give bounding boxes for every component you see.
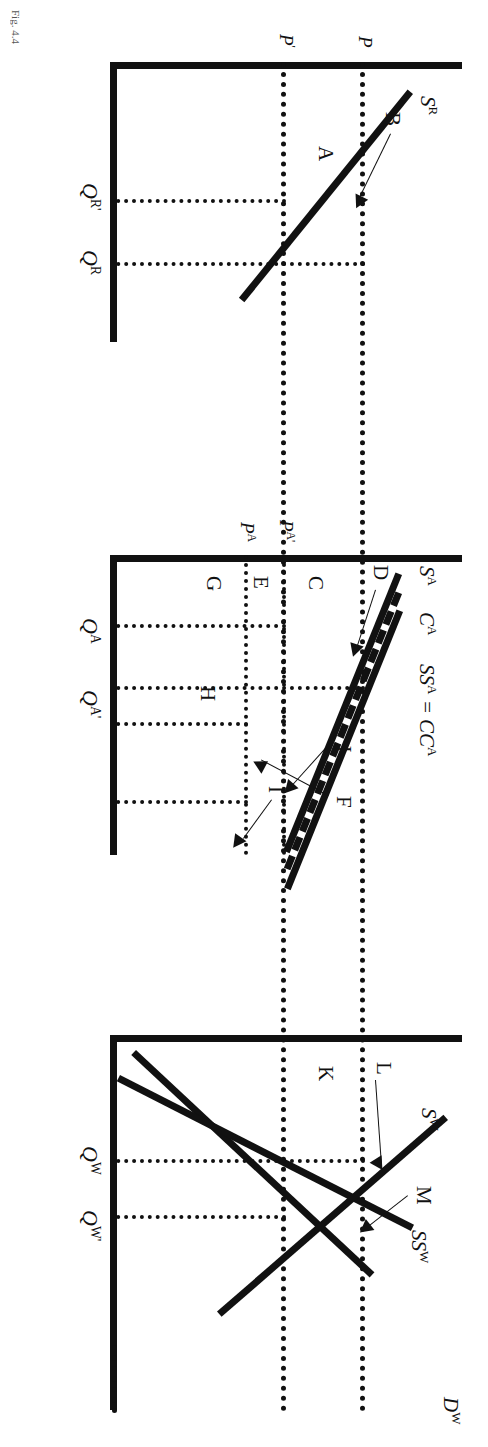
area-label-L: L [371, 1062, 396, 1075]
area-label-E: E [248, 576, 273, 589]
area-label-B: B [380, 112, 405, 126]
figure-caption: Fig. 4.4 [10, 10, 22, 44]
area-label-H: H [195, 686, 220, 701]
economics-figure: A B SR P P' QR' QR [0, 0, 488, 1447]
curve-label-SSW-base: SS [407, 1230, 431, 1251]
curve-label-CCA-sup: A [425, 747, 440, 756]
price-axis-label-PA-prime: PA' [275, 520, 297, 542]
panel2-quantity-axis [110, 555, 117, 855]
panel2-price-axis [110, 555, 462, 562]
panel2-qline-b [116, 686, 365, 690]
panel1-qline-QR-prime [116, 199, 286, 203]
panel3-axis-dotted-stub [112, 1345, 117, 1413]
curve-label-CA-base: C [415, 612, 439, 626]
price-line-PA [244, 555, 248, 855]
curve-label-CA-sup: A [425, 626, 440, 635]
q-label-QAp-base: Q [78, 690, 103, 706]
price-axis-label-PA: PA [236, 522, 258, 542]
q-label-QA-base: Q [78, 618, 103, 634]
price-axis-label-P: P [354, 36, 376, 48]
curve-label-DW-base: D [439, 1397, 463, 1412]
curve-label-SSA-sup: A [425, 685, 440, 694]
panel3-price-axis [110, 1035, 462, 1042]
curve-label-CCA-base: CC [415, 719, 439, 747]
quantity-axis-label-QW-prime: QW' [77, 1210, 103, 1241]
figure-page: A B SR P P' QR' QR [0, 0, 488, 1447]
curve-subsidised-supply-A [284, 591, 402, 870]
curve-excess-supply-world [131, 1050, 374, 1277]
curve-label-C-A: CA [414, 612, 440, 635]
price-label-PAp-base: P [276, 520, 297, 532]
panel1-qline-QR [116, 262, 365, 266]
arrowhead-F [250, 755, 268, 773]
price-axis-label-P-prime: P' [275, 34, 297, 48]
q-label-QR-sup: R [88, 266, 103, 275]
quantity-axis-label-QR-prime: QR' [77, 183, 103, 210]
curve-label-SA-sup: A [425, 577, 440, 586]
panel1-price-axis [110, 62, 462, 69]
q-label-QWp-base: Q [78, 1210, 103, 1226]
panel2-qline-c [116, 722, 248, 726]
area-label-A: A [313, 146, 338, 161]
curve-label-S-W: SW [416, 1108, 442, 1131]
curve-label-eq: = [415, 694, 439, 719]
curve-label-D-W: DW [438, 1397, 464, 1424]
area-label-I: I [263, 786, 288, 793]
price-line-PA-prime [282, 555, 286, 855]
panel2-qline-d [116, 800, 248, 804]
curve-label-DW-sup: W [449, 1412, 464, 1424]
curve-label-SSA-base: SS [415, 664, 439, 685]
area-label-M: M [411, 1186, 436, 1205]
curve-subsidised-supply-world [117, 1075, 414, 1231]
price-label-PA-sup: A [245, 534, 258, 543]
q-label-QWp-sup: W' [88, 1226, 103, 1241]
curve-label-SS-W: SSW [406, 1230, 432, 1263]
area-label-K: K [313, 1066, 338, 1081]
q-label-QRp-base: Q [78, 183, 103, 199]
price-label-PA-base: P [237, 522, 258, 534]
area-label-G: G [201, 576, 226, 591]
quantity-axis-label-QA: QA [77, 618, 103, 644]
rotated-canvas: A B SR P P' QR' QR [0, 0, 488, 1447]
curve-label-S-R-sup: R [426, 107, 441, 116]
curve-label-SW-sup: W [427, 1119, 442, 1131]
panel3-qline-QW [116, 1159, 365, 1163]
area-label-C: C [303, 576, 328, 590]
price-label-P-base: P [355, 36, 376, 48]
curve-label-SW-base: S [417, 1108, 441, 1119]
quantity-axis-label-QA-prime: QA' [77, 690, 103, 718]
q-label-QRp-sup: R' [88, 199, 103, 211]
curve-label-S-R-base: S [416, 96, 440, 107]
price-label-P-prime-sup: ' [284, 46, 297, 48]
q-label-QR-base: Q [78, 250, 103, 266]
q-label-QW-base: Q [78, 1146, 103, 1162]
curve-supply-A [283, 572, 402, 853]
quantity-axis-label-QW: QW [77, 1146, 103, 1175]
q-label-QA-sup: A [88, 634, 103, 644]
area-label-D: D [368, 565, 393, 580]
curve-label-S-A: SA [414, 566, 440, 586]
curve-label-SSW-sup: W [417, 1251, 432, 1263]
q-label-QW-sup: W [88, 1162, 103, 1175]
q-label-QAp-sup: A' [88, 706, 103, 718]
arrowhead-B [350, 194, 368, 212]
panel2-qline-a [116, 624, 286, 628]
price-label-PAp-sup: A' [284, 532, 297, 543]
curve-label-SA-base: S [415, 566, 439, 577]
price-label-P-prime-base: P [276, 34, 297, 46]
curve-label-SS-A-eq-CC-A: SSA = CCA [414, 664, 440, 757]
curve-label-S-R: SR [415, 96, 441, 115]
panel3-qline-QW-prime [116, 1215, 286, 1219]
leader-L [375, 1080, 382, 1164]
quantity-axis-label-QR: QR [77, 250, 103, 275]
area-label-F: F [331, 796, 356, 808]
area-label-J: J [331, 744, 356, 752]
